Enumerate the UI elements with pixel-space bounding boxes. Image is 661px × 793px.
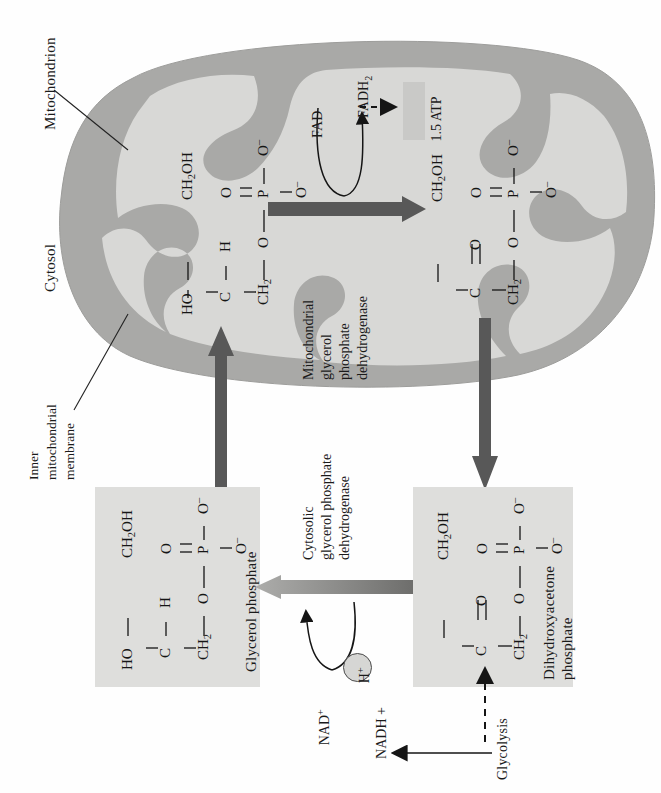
label-inner-membrane-line1: Inner xyxy=(26,452,42,480)
svg-text:O–: O– xyxy=(502,139,521,156)
svg-text:O–: O– xyxy=(252,139,271,156)
arrow-glycolysis-to-nadh xyxy=(386,744,496,762)
svg-text:O: O xyxy=(511,593,527,604)
label-mitochondrion: Mitochondrion xyxy=(42,37,59,130)
svg-text:C: C xyxy=(157,648,173,658)
svg-text:CH2: CH2 xyxy=(255,279,273,305)
label-cytosol: Cytosol xyxy=(42,244,59,292)
label-nadh: NADH + xyxy=(374,707,390,759)
svg-text:CH2OH: CH2OH xyxy=(179,152,197,200)
svg-text:P: P xyxy=(511,546,527,554)
enzyme-mitochondrial-line1: Mitochondrial xyxy=(300,300,317,380)
label-glycolysis: Glycolysis xyxy=(495,718,511,780)
enzyme-mitochondrial-line2: glycerol xyxy=(318,334,335,380)
svg-text:O: O xyxy=(468,187,484,198)
svg-text:O: O xyxy=(467,239,483,250)
enzyme-mitochondrial-line4: dehydrogenase xyxy=(354,296,371,380)
label-atp-yield: 1.5 ATP xyxy=(429,96,445,141)
enzyme-cytosolic-line2: glycerol phosphate xyxy=(318,454,335,560)
enzyme-cytosolic-line3: dehydrogenase xyxy=(336,476,353,560)
svg-text:C: C xyxy=(217,292,233,302)
label-glycerol-phosphate: Glycerol phosphate xyxy=(243,551,260,672)
figure-canvas: Mitochondrion Cytosol Inner mitochondria… xyxy=(0,0,661,793)
svg-text:O: O xyxy=(195,593,211,604)
svg-text:CH2: CH2 xyxy=(511,634,529,660)
label-fadh2: FADH2 xyxy=(356,76,374,118)
svg-text:O: O xyxy=(158,543,174,554)
enzyme-cytosolic-line1: Cytosolic xyxy=(300,506,317,560)
svg-text:O–: O– xyxy=(540,181,559,198)
label-dhap-line2: phosphate xyxy=(559,617,576,680)
label-hplus: H+ xyxy=(355,667,374,683)
svg-text:O: O xyxy=(218,187,234,198)
svg-text:O–: O– xyxy=(290,181,309,198)
svg-text:HO: HO xyxy=(119,648,135,670)
svg-text:H: H xyxy=(217,241,233,252)
svg-text:CH2: CH2 xyxy=(505,279,523,305)
svg-text:C: C xyxy=(473,646,489,656)
svg-text:O–: O– xyxy=(508,497,527,514)
label-dhap-line1: Dihydroxyacetone xyxy=(541,566,558,680)
svg-text:O: O xyxy=(255,237,271,248)
svg-text:O: O xyxy=(474,543,490,554)
label-fad: FAD xyxy=(310,110,326,138)
svg-text:H: H xyxy=(157,597,173,608)
label-inner-membrane-line2: mitochondrial xyxy=(44,404,60,480)
atp-yield-badge xyxy=(403,82,425,140)
svg-text:P: P xyxy=(195,546,211,554)
label-inner-membrane-line3: membrane xyxy=(62,423,78,480)
svg-text:P: P xyxy=(255,190,271,198)
arrow-cytosolic-dehydrogenase xyxy=(255,575,415,601)
svg-text:O: O xyxy=(473,595,489,606)
svg-text:O–: O– xyxy=(546,537,565,554)
enzyme-mitochondrial-line3: phosphate xyxy=(336,323,353,380)
svg-text:CH2OH: CH2OH xyxy=(119,510,137,558)
molecule-glycerol-phosphate-cytosol: CH2OH HO C H CH2 O P O O– O– xyxy=(108,498,248,688)
molecule-dhap-matrix: CH2OH C O CH2 O P O O– O– xyxy=(418,140,558,330)
svg-text:CH2: CH2 xyxy=(195,634,213,660)
svg-text:C: C xyxy=(467,288,483,298)
svg-text:O–: O– xyxy=(192,497,211,514)
svg-text:O: O xyxy=(505,237,521,248)
svg-text:P: P xyxy=(505,190,521,198)
svg-text:CH2OH: CH2OH xyxy=(435,512,453,560)
molecule-glycerol-phosphate-matrix: CH2OH HO C H CH2 O P O O– O– xyxy=(168,140,308,330)
svg-text:CH2OH: CH2OH xyxy=(429,154,447,202)
label-nad-plus: NAD+ xyxy=(315,709,334,745)
svg-text:HO: HO xyxy=(179,293,195,315)
